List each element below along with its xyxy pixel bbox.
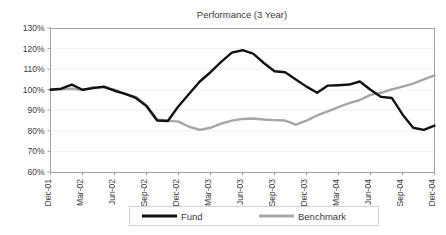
x-axis-tick-label: Mar-04 bbox=[331, 179, 341, 206]
x-axis-tick-label: Dec-03 bbox=[299, 179, 309, 207]
x-axis-tick-label: Mar-03 bbox=[203, 179, 213, 206]
y-axis-tick-label: 110% bbox=[23, 64, 45, 74]
performance-chart: Performance (3 Year) 130%120%110%100%90%… bbox=[0, 0, 446, 235]
y-axis-tick-label: 80% bbox=[27, 126, 44, 136]
chart-title: Performance (3 Year) bbox=[197, 9, 287, 20]
x-axis-tick-label: Dec-01 bbox=[43, 179, 53, 207]
legend-label-benchmark: Benchmark bbox=[298, 211, 346, 222]
y-axis-tick-label: 90% bbox=[27, 105, 44, 115]
chart-legend: Fund Benchmark bbox=[130, 207, 379, 226]
x-axis-tick-label: Jun-03 bbox=[235, 179, 245, 205]
x-axis-tick-label: Jun-04 bbox=[363, 179, 373, 205]
y-axis-tick-label: 60% bbox=[27, 167, 44, 177]
chart-background bbox=[0, 0, 446, 235]
x-axis-tick-label: Dec-04 bbox=[427, 179, 437, 207]
x-axis-tick-label: Sep-03 bbox=[267, 179, 277, 207]
y-axis-tick-label: 120% bbox=[23, 44, 45, 54]
x-axis-tick-label: Dec-02 bbox=[171, 179, 181, 207]
x-axis-tick-label: Jun-02 bbox=[107, 179, 117, 205]
y-axis-tick-label: 130% bbox=[23, 23, 45, 33]
x-axis-tick-label: Sep-04 bbox=[395, 179, 405, 207]
y-axis-tick-label: 70% bbox=[27, 146, 44, 156]
chart-canvas: Performance (3 Year) 130%120%110%100%90%… bbox=[0, 0, 446, 235]
x-axis-tick-label: Sep-02 bbox=[139, 179, 149, 207]
legend-label-fund: Fund bbox=[181, 211, 203, 222]
x-axis-tick-label: Mar-02 bbox=[75, 179, 85, 206]
y-axis-tick-label: 100% bbox=[23, 85, 45, 95]
